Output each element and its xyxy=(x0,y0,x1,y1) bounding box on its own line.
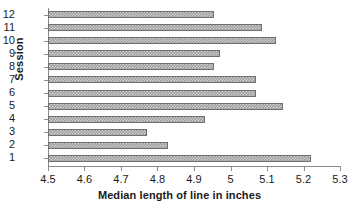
x-axis-title: Median length of line in inches xyxy=(0,189,359,201)
x-tick-mark-4.6 xyxy=(84,167,85,171)
bar-row xyxy=(48,34,276,47)
x-tick-label-4.6: 4.6 xyxy=(65,173,105,185)
y-tick-label-10: 10 xyxy=(0,35,15,46)
bar-session-6 xyxy=(48,90,256,97)
bar-session-4 xyxy=(48,116,205,123)
x-tick-label-5.2: 5.2 xyxy=(284,173,324,185)
bar-session-7 xyxy=(48,76,256,83)
x-tick-label-5.3: 5.3 xyxy=(320,173,359,185)
bar-session-3 xyxy=(48,129,147,136)
x-tick-label-4.9: 4.9 xyxy=(174,173,214,185)
bar-session-12 xyxy=(48,11,214,18)
x-tick-label-4.7: 4.7 xyxy=(101,173,141,185)
bar-row xyxy=(48,100,283,113)
bar-session-8 xyxy=(48,63,214,70)
bar-session-5 xyxy=(48,103,283,110)
y-axis-title: Session xyxy=(13,14,27,104)
bar-row xyxy=(48,87,256,100)
bar-row xyxy=(48,139,168,152)
x-tick-mark-4.8 xyxy=(157,167,158,171)
x-tick-label-4.5: 4.5 xyxy=(28,173,68,185)
y-tick-label-9: 9 xyxy=(0,48,15,59)
y-tick-label-12: 12 xyxy=(0,9,15,20)
bar-row xyxy=(48,60,214,73)
y-tick-label-2: 2 xyxy=(0,139,15,150)
x-tick-mark-5.2 xyxy=(304,167,305,171)
y-tick-label-8: 8 xyxy=(0,61,15,72)
y-tick-label-6: 6 xyxy=(0,87,15,98)
bar-row xyxy=(48,73,256,86)
bar-session-9 xyxy=(48,50,220,57)
bar-row xyxy=(48,152,311,165)
x-tick-mark-5.1 xyxy=(267,167,268,171)
x-tick-label-5: 5 xyxy=(211,173,251,185)
bar-session-11 xyxy=(48,24,262,31)
bar-session-10 xyxy=(48,37,276,44)
bar-row xyxy=(48,47,220,60)
bar-row xyxy=(48,126,147,139)
y-tick-label-7: 7 xyxy=(0,74,15,85)
x-tick-label-4.8: 4.8 xyxy=(138,173,178,185)
y-tick-label-5: 5 xyxy=(0,100,15,111)
x-tick-mark-4.9 xyxy=(194,167,195,171)
y-tick-label-3: 3 xyxy=(0,126,15,137)
bar-chart: Session 121110987654321 4.54.64.74.84.95… xyxy=(0,0,359,214)
x-tick-mark-4.7 xyxy=(121,167,122,171)
y-tick-label-4: 4 xyxy=(0,113,15,124)
x-tick-mark-4.5 xyxy=(48,167,49,171)
x-tick-mark-5.3 xyxy=(340,167,341,171)
plot-area xyxy=(48,8,340,165)
y-tick-label-11: 11 xyxy=(0,22,15,33)
bar-row xyxy=(48,21,262,34)
bar-session-1 xyxy=(48,155,311,162)
x-tick-mark-5 xyxy=(231,167,232,171)
bar-row xyxy=(48,8,214,21)
bar-session-2 xyxy=(48,142,168,149)
x-tick-label-5.1: 5.1 xyxy=(247,173,287,185)
y-tick-label-1: 1 xyxy=(0,152,15,163)
bar-row xyxy=(48,113,205,126)
